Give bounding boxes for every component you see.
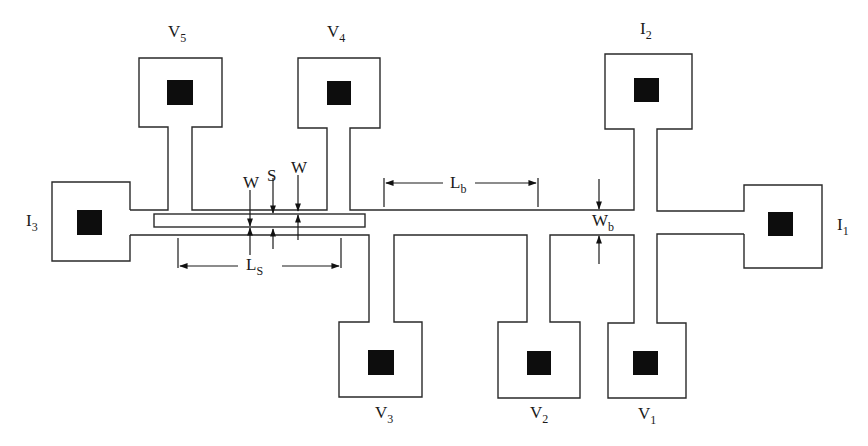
device-layout-diagram: V5 V4 I2 I3 I1 V3 V2 V1 W S W LS Lb Wb [0, 0, 868, 446]
label-i1: I1 [837, 215, 849, 238]
contact-i2 [634, 78, 659, 102]
label-w-left: W [243, 173, 260, 192]
contact-v1 [633, 351, 658, 375]
label-v4: V4 [327, 22, 345, 45]
label-v1: V1 [638, 404, 656, 427]
label-w-right: W [291, 158, 308, 177]
contact-i3 [77, 210, 102, 235]
label-v2: V2 [530, 403, 548, 426]
contact-v5 [167, 80, 193, 105]
contact-v4 [327, 81, 351, 105]
contact-v3 [368, 350, 394, 375]
label-v5: V5 [168, 22, 186, 45]
contact-i1 [768, 212, 793, 236]
contact-v2 [527, 351, 551, 375]
label-ls: LS [246, 255, 263, 278]
label-i3: I3 [26, 211, 38, 234]
label-lb: Lb [450, 173, 466, 196]
upper-outline [52, 54, 822, 398]
label-s: S [267, 166, 276, 185]
top-edge-outline [130, 54, 822, 268]
label-v3: V3 [375, 403, 393, 426]
label-i2: I2 [640, 19, 652, 42]
side-gate-strip [154, 214, 365, 227]
label-wb: Wb [592, 211, 614, 234]
